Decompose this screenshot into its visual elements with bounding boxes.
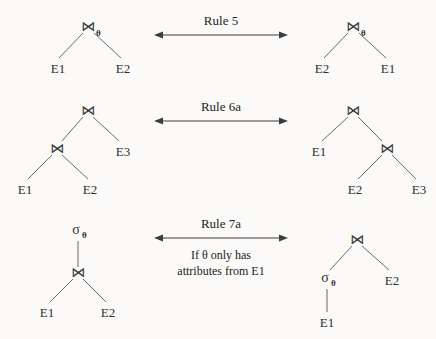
arrow-head-left-icon	[154, 32, 163, 39]
tree-edge	[83, 279, 106, 302]
rule-5-arrow-group: Rule 5	[154, 13, 288, 38]
rule-6a-left-tree: ⋈ ⋈ E1 E2 E3	[18, 102, 130, 197]
tree-edge	[28, 155, 52, 179]
tree-edge	[50, 279, 73, 302]
join-operator-icon: ⋈	[81, 102, 95, 118]
rule-5-left-tree: ⋈ θ E1 E2	[51, 18, 130, 76]
theta-subscript-label: θ	[361, 28, 366, 38]
join-operator-icon: ⋈	[81, 18, 95, 34]
tree-edge	[62, 155, 88, 179]
arrow-head-right-icon	[279, 118, 288, 125]
leaf-node-label: E1	[51, 61, 65, 76]
join-operator-icon: ⋈	[346, 102, 360, 118]
leaf-node-label: E2	[315, 61, 329, 76]
join-operator-icon: ⋈	[71, 264, 85, 280]
arrow-head-left-icon	[154, 235, 163, 242]
rule-condition-line-1: If θ only has	[191, 248, 251, 262]
leaf-node-label: E2	[116, 61, 130, 76]
join-operator-icon: ⋈	[346, 18, 360, 34]
select-operator-icon: σ	[72, 222, 80, 237]
tree-edge	[322, 117, 348, 141]
tree-edge	[362, 246, 389, 270]
rule-6a-right-tree: ⋈ ⋈ E1 E2 E3	[312, 102, 426, 197]
arrow-head-right-icon	[279, 32, 288, 39]
join-operator-icon: ⋈	[380, 140, 394, 156]
select-operator-icon: σ	[321, 270, 329, 285]
equivalence-rules-diagram: ⋈ θ E1 E2 Rule 5 ⋈ θ E2 E1	[0, 0, 436, 339]
leaf-node-label: E1	[312, 144, 326, 159]
rule-7a-left-tree: σ θ ⋈ E1 E2	[40, 222, 115, 320]
rule-label: Rule 5	[204, 13, 238, 28]
rule-6a-arrow-group: Rule 6a	[154, 99, 288, 124]
leaf-node-label: E1	[381, 61, 395, 76]
arrow-head-left-icon	[154, 118, 163, 125]
leaf-node-label: E3	[116, 144, 130, 159]
tree-edge	[59, 33, 83, 58]
tree-edge	[330, 246, 352, 270]
rule-7a-right-tree: ⋈ σ θ E1 E2	[320, 231, 399, 330]
rule-7a-row: σ θ ⋈ E1 E2 Rule 7a If θ only has attrib…	[40, 216, 399, 330]
rule-7a-arrow-group: Rule 7a If θ only has attributes from E1	[154, 216, 288, 278]
leaf-node-label: E3	[412, 182, 426, 197]
leaf-node-label: E1	[18, 182, 32, 197]
rule-condition-line-2: attributes from E1	[177, 264, 264, 278]
tree-edge	[392, 155, 416, 179]
tree-edge	[358, 155, 382, 179]
leaf-node-label: E2	[101, 305, 115, 320]
arrow-head-right-icon	[279, 235, 288, 242]
theta-subscript-label: θ	[331, 278, 336, 288]
rule-label: Rule 7a	[201, 216, 241, 231]
leaf-node-label: E2	[83, 182, 97, 197]
join-operator-icon: ⋈	[50, 140, 64, 156]
rule-5-right-tree: ⋈ θ E2 E1	[315, 18, 395, 76]
rule-label: Rule 6a	[201, 99, 241, 114]
leaf-node-label: E1	[40, 305, 54, 320]
tree-edge	[324, 33, 348, 58]
rule-6a-row: ⋈ ⋈ E1 E2 E3 Rule 6a ⋈ ⋈ E1 E2 E3	[18, 99, 426, 197]
leaf-node-label: E2	[348, 182, 362, 197]
tree-edge	[62, 117, 83, 141]
theta-subscript-label: θ	[82, 230, 87, 240]
join-operator-icon: ⋈	[350, 231, 364, 247]
leaf-node-label: E2	[385, 273, 399, 288]
leaf-node-label: E1	[320, 315, 334, 330]
tree-edge	[358, 117, 382, 141]
tree-edge	[93, 117, 119, 141]
rule-5-row: ⋈ θ E1 E2 Rule 5 ⋈ θ E2 E1	[51, 13, 395, 76]
theta-subscript-label: θ	[96, 28, 101, 38]
